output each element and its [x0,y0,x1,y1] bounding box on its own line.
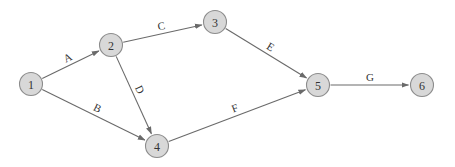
edge-g: G [331,71,409,85]
edge-e: E [226,29,307,78]
edge-label: D [133,83,147,95]
edge-label: A [61,50,73,64]
edge-d: D [116,56,151,133]
node-label: 3 [212,16,218,30]
edge-a: A [42,50,99,78]
node-6: 6 [411,74,434,97]
edge-label: E [265,40,277,54]
node-label: 6 [419,79,425,93]
arrow-line [116,56,151,133]
edge-f: F [169,90,306,142]
node-3: 3 [204,11,227,34]
node-4: 4 [146,135,169,158]
node-label: 4 [154,140,160,154]
arrow-line [169,90,306,142]
edge-label: G [366,71,374,83]
edge-label: B [92,101,104,115]
edge-b: B [42,90,145,141]
edge-label: C [156,19,166,32]
node-label: 2 [108,39,114,53]
node-5: 5 [307,74,330,97]
arrow-line [226,29,307,78]
node-label: 5 [315,79,321,93]
network-diagram: ABCDEFG 123456 [0,0,455,167]
node-label: 1 [28,78,34,92]
node-1: 1 [20,73,43,96]
nodes-layer: 123456 [20,11,434,158]
edge-label: F [230,101,240,114]
edges-layer: ABCDEFG [42,19,408,142]
arrow-line [42,90,145,141]
node-2: 2 [100,34,123,57]
edge-c: C [123,19,202,42]
